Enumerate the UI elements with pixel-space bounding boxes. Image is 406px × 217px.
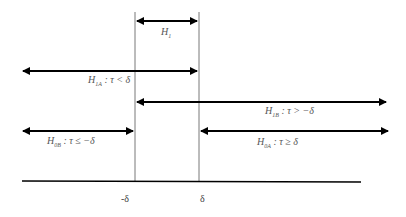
tau-axis: [22, 181, 361, 182]
diagram-canvas: [0, 0, 406, 217]
h1-label: H1: [161, 27, 171, 39]
h0b-label: H0B : τ ≤ −δ: [47, 136, 95, 148]
h1a-label: H1A : τ < δ: [88, 75, 130, 87]
h1b-label: H1B : τ > −δ: [265, 106, 314, 118]
tick-pos-delta: δ: [200, 194, 205, 204]
tick-neg-delta: -δ: [121, 194, 129, 204]
h0a-label: H0A : τ ≥ δ: [257, 137, 298, 149]
